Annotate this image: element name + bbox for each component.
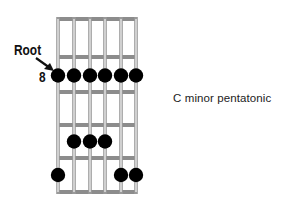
fret-line: [57, 190, 137, 194]
root-note-dot: [51, 68, 65, 82]
note-dot: [83, 68, 97, 82]
fret-line: [57, 90, 137, 94]
note-dot: [114, 68, 128, 82]
note-dot: [67, 134, 81, 148]
string-lines: [56, 17, 138, 194]
note-dot: [129, 68, 143, 82]
note-dot: [129, 168, 143, 182]
note-dot: [98, 134, 112, 148]
fret-line: [57, 55, 137, 59]
note-dot: [98, 68, 112, 82]
start-fret-number: 8: [39, 69, 46, 85]
note-dot: [51, 168, 65, 182]
fret-line: [57, 123, 137, 127]
note-dot: [114, 168, 128, 182]
scale-title: C minor pentatonic: [173, 92, 271, 104]
root-label: Root: [14, 42, 41, 58]
fret-line: [57, 17, 137, 21]
fret-line: [57, 156, 137, 160]
fret-lines: [57, 17, 137, 194]
note-dot: [83, 134, 97, 148]
note-dot: [67, 68, 81, 82]
